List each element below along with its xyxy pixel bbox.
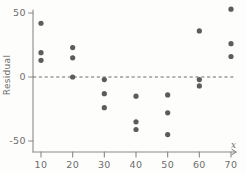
data-point [165,132,170,137]
data-point [197,83,202,88]
x-axis-tick-label: 50 [161,159,174,170]
residual-scatter-plot: 500-5010203040506070xResidual [0,0,246,173]
x-axis-tick-label: 30 [98,159,111,170]
data-point [228,54,233,59]
x-axis-tick-label: 10 [35,159,48,170]
data-point [197,28,202,33]
chart-canvas: 500-5010203040506070xResidual [0,0,246,173]
x-axis-tick-label: 20 [66,159,79,170]
data-point [197,77,202,82]
x-axis-tick-label: 40 [130,159,143,170]
data-point [70,55,75,60]
data-point [102,105,107,110]
data-point [38,21,43,26]
data-point [228,41,233,46]
x-axis-title: x [231,140,236,150]
data-point [70,74,75,79]
y-axis-title: Residual [2,55,12,95]
data-point [70,45,75,50]
data-point [228,7,233,12]
data-point [38,50,43,55]
data-point [102,77,107,82]
data-point [102,91,107,96]
data-point [165,110,170,115]
y-axis-tick-label: 0 [20,71,26,82]
x-axis-tick-label: 60 [193,159,206,170]
x-axis-tick-label: 70 [225,159,238,170]
data-point [133,94,138,99]
data-point [133,119,138,124]
data-point [165,92,170,97]
data-point [38,58,43,63]
y-axis-tick-label: 50 [13,7,26,18]
y-axis-tick-label: -50 [9,135,26,146]
data-point [133,127,138,132]
